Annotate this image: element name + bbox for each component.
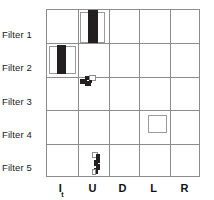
grid-hline-2 bbox=[47, 77, 199, 78]
filter-response-figure: Filter 1 Filter 2 Filter 3 Filter 4 Filt… bbox=[0, 0, 214, 200]
cell-mark-filter1-u-bar bbox=[88, 10, 98, 43]
streak-part-f bbox=[92, 169, 96, 175]
col-label-it: It bbox=[46, 182, 77, 196]
col-label-it-subscript: t bbox=[61, 191, 63, 198]
row-label-filter-4: Filter 4 bbox=[2, 129, 44, 140]
grid-hline-3 bbox=[47, 110, 199, 111]
cell-mark-filter5-u-streak bbox=[91, 152, 104, 176]
grid-hline-1 bbox=[47, 43, 199, 44]
col-label-l: L bbox=[138, 182, 169, 194]
response-grid bbox=[46, 9, 200, 177]
grid-vline-4 bbox=[170, 10, 171, 176]
grid-vline-1 bbox=[78, 10, 79, 176]
cell-mark-filter3-u-blob bbox=[80, 75, 98, 87]
grid-vline-2 bbox=[109, 10, 110, 176]
col-label-r: R bbox=[169, 182, 200, 194]
col-label-u: U bbox=[77, 182, 108, 194]
grid-hline-4 bbox=[47, 144, 199, 145]
cell-mark-filter2-it-bar bbox=[57, 45, 66, 74]
row-label-filter-3: Filter 3 bbox=[2, 96, 44, 107]
blob-part-e bbox=[89, 80, 92, 83]
row-label-filter-1: Filter 1 bbox=[2, 29, 44, 40]
row-label-filter-2: Filter 2 bbox=[2, 62, 44, 73]
row-label-filter-5: Filter 5 bbox=[2, 162, 44, 173]
col-label-d: D bbox=[107, 182, 138, 194]
cell-mark-filter4-l-box bbox=[148, 115, 167, 133]
grid-vline-3 bbox=[139, 10, 140, 176]
